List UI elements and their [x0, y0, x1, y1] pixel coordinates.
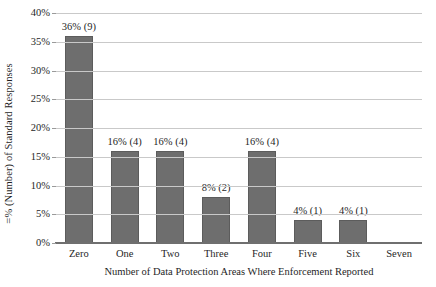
gridline	[56, 214, 422, 215]
x-axis-category-label: Zero	[56, 246, 102, 262]
x-axis-category-label: Seven	[376, 246, 422, 262]
gridline	[56, 13, 422, 14]
bar-data-label: 36% (9)	[62, 22, 96, 33]
y-axis-tick-label: 40%	[14, 8, 50, 19]
gridline	[56, 186, 422, 187]
bar[interactable]	[294, 220, 322, 243]
x-axis-category-labels: ZeroOneTwoThreeFourFiveSixSeven	[56, 246, 422, 262]
y-axis-tick-label: 10%	[14, 180, 50, 191]
y-axis-tick-labels: 0%5%10%15%20%25%30%35%40%	[14, 0, 50, 287]
gridline	[56, 128, 422, 129]
y-axis-tick-label: 15%	[14, 152, 50, 163]
gridline	[56, 71, 422, 72]
bar-data-label: 16% (4)	[108, 137, 142, 148]
gridline	[56, 42, 422, 43]
bar[interactable]	[156, 151, 184, 243]
bar[interactable]	[111, 151, 139, 243]
x-axis-title: Number of Data Protection Areas Where En…	[56, 265, 422, 279]
bar[interactable]	[339, 220, 367, 243]
bar[interactable]	[65, 36, 93, 243]
plot-area: 36% (9)16% (4)16% (4)8% (2)16% (4)4% (1)…	[56, 13, 422, 243]
x-axis-category-label: Two	[148, 246, 194, 262]
y-axis-tickmark	[52, 214, 56, 215]
x-axis-category-label: Six	[331, 246, 377, 262]
y-axis-tickmark	[52, 243, 56, 244]
y-axis-tickmark	[52, 71, 56, 72]
bar-data-label: 16% (4)	[153, 137, 187, 148]
bar-data-label: 8% (2)	[202, 183, 231, 194]
x-axis-category-label: Four	[239, 246, 285, 262]
y-axis-tick-label: 25%	[14, 94, 50, 105]
gridline	[56, 99, 422, 100]
x-axis-category-label: Three	[193, 246, 239, 262]
y-axis-tickmark	[52, 13, 56, 14]
y-axis-tickmark	[52, 99, 56, 100]
y-axis-tick-label: 5%	[14, 209, 50, 220]
bar-data-label: 16% (4)	[245, 137, 279, 148]
y-axis-tick-label: 30%	[14, 65, 50, 76]
y-axis-tickmark	[52, 42, 56, 43]
gridline	[56, 243, 422, 244]
y-axis-tick-label: 20%	[14, 123, 50, 134]
y-axis-tick-label: 35%	[14, 37, 50, 48]
gridline	[56, 157, 422, 158]
x-axis-category-label: One	[102, 246, 148, 262]
y-axis-tickmark	[52, 128, 56, 129]
bar[interactable]	[248, 151, 276, 243]
y-axis-tickmark	[52, 157, 56, 158]
y-axis-tickmark	[52, 186, 56, 187]
y-axis-tick-label: 0%	[14, 238, 50, 249]
bar[interactable]	[202, 197, 230, 243]
x-axis-category-label: Five	[285, 246, 331, 262]
bar-chart: =% (Number) of Standard Responses 0%5%10…	[0, 0, 436, 287]
